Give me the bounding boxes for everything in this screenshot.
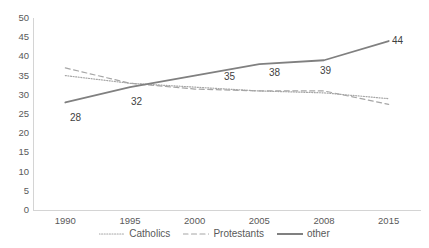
data-label: 38: [269, 68, 280, 78]
chart-legend: CatholicsProtestantsother: [0, 228, 429, 239]
data-label: 35: [224, 72, 235, 82]
data-label: 28: [70, 113, 81, 123]
dashed-line-swatch: [183, 230, 209, 238]
solid-line-swatch: [277, 230, 303, 238]
legend-item-catholics[interactable]: Catholics: [99, 228, 170, 239]
legend-label: Catholics: [129, 228, 170, 239]
legend-item-other[interactable]: other: [277, 228, 330, 239]
dotted-line-swatch: [99, 230, 125, 238]
legend-item-protestants[interactable]: Protestants: [183, 228, 264, 239]
line-chart: 05101520253035404550 1990199520002005200…: [0, 0, 429, 248]
data-label: 44: [392, 36, 403, 46]
data-label: 32: [131, 97, 142, 107]
legend-label: Protestants: [213, 228, 264, 239]
series-lines: [0, 0, 429, 248]
legend-label: other: [307, 228, 330, 239]
data-label: 39: [320, 66, 331, 76]
